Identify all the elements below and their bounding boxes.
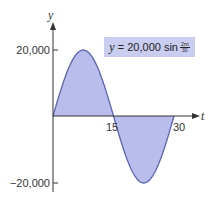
y-tick-label-pos: 20,000 <box>16 44 50 56</box>
equation-body: = 20,000 sin <box>115 41 178 53</box>
y-tick-label-neg: −20,000 <box>10 177 50 189</box>
fraction-denominator: 30 <box>182 48 188 53</box>
sine-chart: y t 20,000 −20,000 15 30 <box>0 0 212 204</box>
equation-fraction: 2πt 30 <box>180 42 190 53</box>
equation-label: y = 20,000 sin 2πt 30 <box>104 37 195 57</box>
x-axis-label: t <box>201 109 205 123</box>
x-tick-label-30: 30 <box>173 121 185 133</box>
y-axis-label: y <box>47 8 54 22</box>
y-axis-arrow-icon <box>50 22 56 30</box>
x-axis-arrow-icon <box>192 113 200 119</box>
x-tick-label-15: 15 <box>106 121 118 133</box>
